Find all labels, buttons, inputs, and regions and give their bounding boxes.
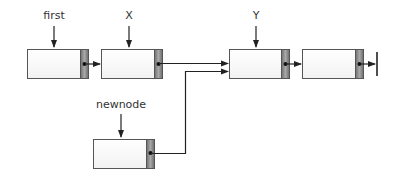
linked-list-diagram — [0, 0, 399, 180]
node-y — [230, 50, 290, 79]
label-first: first — [43, 9, 65, 22]
label-newnode: newnode — [96, 98, 146, 111]
label-x: X — [125, 9, 133, 22]
node-x — [102, 50, 163, 79]
link-newnode-to-y — [151, 72, 228, 154]
node-first — [28, 50, 89, 79]
node-new — [94, 140, 155, 169]
label-y: Y — [253, 9, 260, 22]
node-last — [303, 50, 364, 79]
